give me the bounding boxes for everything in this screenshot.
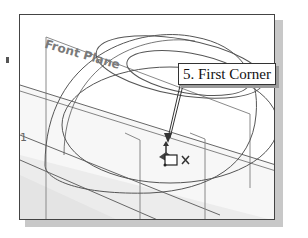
page-margin-mark (6, 57, 9, 63)
plane-edge-label: 1 (20, 131, 27, 144)
rectangle-cursor-icon (162, 153, 192, 169)
step-callout: 5. First Corner (178, 63, 276, 85)
graphics-viewport[interactable]: Front Plane 1 (19, 14, 275, 220)
